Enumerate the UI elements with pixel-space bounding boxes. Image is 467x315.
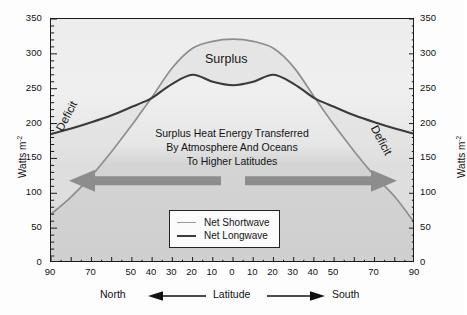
x-tick-label-1: 70: [78, 266, 102, 277]
y-tick-label-right-200: 200: [420, 117, 448, 128]
footer-label-latitude: Latitude: [213, 288, 250, 300]
footer-label-south: South: [332, 288, 359, 300]
legend-item-shortwave: Net Shortwave: [177, 216, 270, 229]
y-tick-label-left-200: 200: [14, 117, 42, 128]
legend-label-shortwave: Net Shortwave: [204, 217, 270, 228]
footer-label-north: North: [100, 288, 126, 300]
legend-item-longwave: Net Longwave: [177, 229, 270, 242]
y-axis-title-right-text: Watts m: [456, 142, 467, 178]
y-tick-label-right-250: 250: [420, 82, 448, 93]
annotation-surplus: Surplus: [205, 52, 247, 66]
y-tick-label-left-50: 50: [14, 221, 42, 232]
y-axis-title-left-text: Watts m: [17, 142, 28, 178]
y-tick-label-right-350: 350: [420, 12, 448, 23]
y-tick-label-right-150: 150: [420, 151, 448, 162]
legend-label-longwave: Net Longwave: [204, 230, 268, 241]
y-tick-label-left-350: 350: [14, 12, 42, 23]
transfer-arrow-right: [245, 170, 397, 192]
transfer-arrow-left: [69, 170, 221, 192]
footer-arrow-right: [265, 290, 325, 302]
y-axis-title-left: Watts m-2: [16, 136, 28, 178]
x-tick-label-12: 50: [321, 266, 345, 277]
y-axis-title-right-exponent: -2: [455, 136, 462, 142]
x-tick-label-14: 90: [402, 266, 426, 277]
footer-arrow-left: [148, 290, 208, 302]
legend: Net Shortwave Net Longwave: [169, 210, 280, 248]
y-axis-title-left-exponent: -2: [16, 136, 23, 142]
center-note-line-2: By Atmosphere And Oceans: [155, 140, 309, 154]
y-tick-label-right-50: 50: [420, 221, 448, 232]
y-tick-label-right-100: 100: [420, 186, 448, 197]
y-tick-label-right-300: 300: [420, 47, 448, 58]
x-tick-label-13: 70: [362, 266, 386, 277]
y-axis-title-right: Watts m-2: [455, 136, 467, 178]
y-tick-label-left-250: 250: [14, 82, 42, 93]
annotation-center-note: Surplus Heat Energy Transferred By Atmos…: [155, 126, 309, 168]
legend-swatch-shortwave: [177, 222, 196, 223]
y-tick-label-left-100: 100: [14, 186, 42, 197]
x-tick-label-0: 90: [38, 266, 62, 277]
y-tick-label-left-300: 300: [14, 47, 42, 58]
center-note-line-1: Surplus Heat Energy Transferred: [155, 126, 309, 140]
legend-swatch-longwave: [177, 235, 196, 237]
center-note-line-3: To Higher Latitudes: [155, 154, 309, 168]
